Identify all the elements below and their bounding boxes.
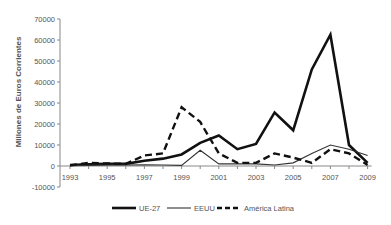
x-tick-label: 1993 [62,173,79,182]
x-tick-label: 1997 [136,173,153,182]
series-lines [70,35,368,166]
legend-item: UE-27 [112,204,160,213]
y-tick-label: 20000 [34,120,55,129]
y-tick-label: 10000 [34,141,55,150]
y-tick-label: 30000 [34,99,55,108]
y-tick-label: 70000 [34,15,55,24]
y-axis: -100000100002000030000400005000060000700… [32,15,60,192]
x-tick-label: 2001 [210,173,227,182]
series-ue-27 [70,35,368,165]
x-axis: 199319951997199920012003200520072009 [60,166,376,182]
legend-label: América Latina [244,204,295,213]
legend-label: UE-27 [139,204,160,213]
y-tick-label: 50000 [34,57,55,66]
legend: UE-27EEUUAmérica Latina [112,204,295,213]
legend-item: América Latina [217,204,295,213]
x-tick-label: 2009 [359,173,376,182]
y-axis-label: Millones de Euros Corrientes [14,36,23,147]
x-tick-label: 2005 [285,173,302,182]
x-tick-label: 1995 [99,173,116,182]
legend-label: EEUU [194,204,215,213]
y-tick-label: 0 [51,162,55,171]
line-chart: -100000100002000030000400005000060000700… [0,0,391,225]
y-tick-label: 40000 [34,78,55,87]
y-tick-label: 60000 [34,36,55,45]
y-tick-label: -10000 [32,183,55,192]
legend-item: EEUU [167,204,215,213]
x-tick-label: 2003 [248,173,265,182]
x-tick-label: 2007 [322,173,339,182]
x-tick-label: 1999 [173,173,190,182]
